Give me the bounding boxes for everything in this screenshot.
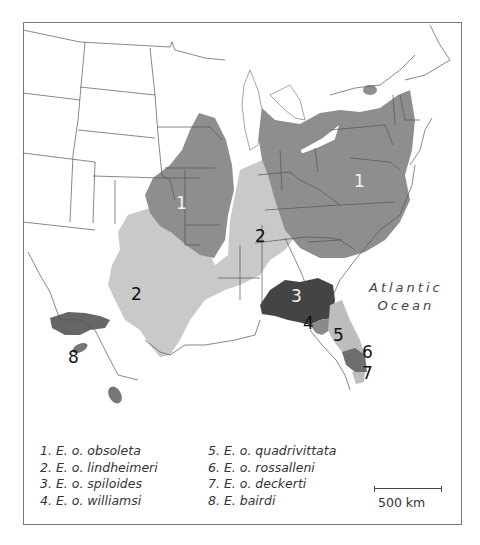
range-region-8-blob: [105, 384, 124, 406]
legend-item: 4. E. o. williamsi: [40, 493, 158, 510]
region-label-1: 1: [176, 193, 187, 213]
legend-column-2: 5. E. o. quadrivittata 6. E. o. rossalle…: [208, 443, 336, 509]
region-label-5: 5: [333, 325, 344, 345]
region-label-3: 3: [291, 286, 302, 306]
legend-item: 3. E. o. spiloides: [40, 476, 158, 493]
legend-item: 8. E. bairdi: [208, 493, 336, 510]
region-label-2: 2: [255, 226, 266, 246]
region-label-6: 6: [362, 342, 373, 362]
region-label-1: 1: [354, 171, 365, 191]
region-label-4: 4: [303, 313, 314, 333]
legend-column-1: 1. E. o. obsoleta 2. E. o. lindheimeri 3…: [40, 443, 158, 509]
legend-item: 7. E. o. deckerti: [208, 476, 336, 493]
legend-item: 1. E. o. obsoleta: [40, 443, 158, 460]
legend-item: 5. E. o. quadrivittata: [208, 443, 336, 460]
scale-bar-line: [374, 486, 442, 492]
region-label-2: 2: [131, 284, 142, 304]
ocean-label: Atlantic Ocean: [369, 279, 443, 315]
legend-item: 2. E. o. lindheimeri: [40, 460, 158, 477]
legend-item: 6. E. o. rossalleni: [208, 460, 336, 477]
range-region-8: [50, 312, 110, 335]
region-label-7: 7: [362, 363, 373, 383]
range-map: [0, 0, 480, 440]
scale-bar-label: 500 km: [378, 495, 425, 510]
region-label-8: 8: [68, 347, 79, 367]
